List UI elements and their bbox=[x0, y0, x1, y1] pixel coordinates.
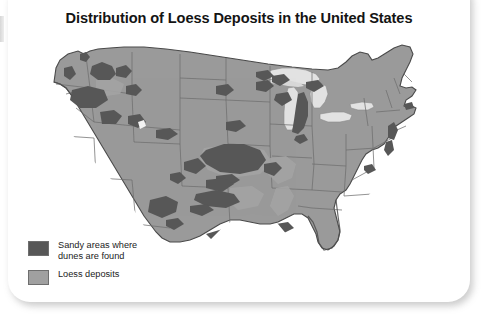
legend-item-dunes: Sandy areas where dunes are found bbox=[28, 240, 208, 262]
legend-item-loess: Loess deposits bbox=[28, 269, 208, 285]
page-edge-strip bbox=[0, 16, 4, 42]
map-legend: Sandy areas where dunes are found Loess … bbox=[28, 240, 208, 292]
legend-item-label: Sandy areas where dunes are found bbox=[58, 240, 137, 262]
light-gray-square-swatch-icon bbox=[28, 270, 49, 285]
dune-texas-gulf-small bbox=[276, 222, 294, 233]
page-title: Distribution of Loess Deposits in the Un… bbox=[8, 10, 470, 26]
figure-card: Distribution of Loess Deposits in the Un… bbox=[8, 0, 470, 302]
legend-item-label: Loess deposits bbox=[58, 269, 119, 280]
dune-texas-coast bbox=[206, 226, 270, 244]
lake-erie bbox=[320, 112, 352, 122]
lake-ontario bbox=[350, 102, 374, 110]
dark-gray-square-swatch-icon bbox=[28, 241, 49, 256]
